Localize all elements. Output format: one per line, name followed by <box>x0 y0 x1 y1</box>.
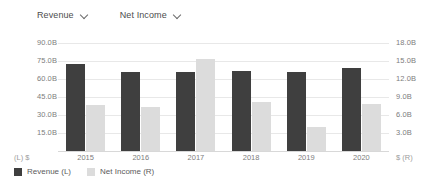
category-label: 2015 <box>58 153 113 162</box>
left-axis-tick-label: 60.0B <box>37 74 57 83</box>
legend-item[interactable]: Net Income (R) <box>87 167 154 176</box>
right-axis-unit: $ (R) <box>396 153 413 162</box>
right-axis-tick-label: 9.0B <box>396 92 412 101</box>
bar-net-income[interactable] <box>196 59 215 151</box>
legend-label: Revenue (L) <box>27 167 71 176</box>
plot-area: 90.0B75.0B60.0B45.0B30.0B15.0B 18.0B15.0… <box>0 34 435 160</box>
bar-revenue[interactable] <box>176 72 195 151</box>
left-axis-tick-label: 45.0B <box>37 92 57 101</box>
left-axis-unit: (L) $ <box>14 153 29 162</box>
right-axis-tick-label: 12.0B <box>396 74 416 83</box>
legend-item[interactable]: Revenue (L) <box>14 167 71 176</box>
bar-group[interactable]: 2017 <box>168 34 223 160</box>
bar-revenue[interactable] <box>232 71 251 151</box>
bar-group[interactable]: 2018 <box>224 34 279 160</box>
left-axis-tick-label: 30.0B <box>37 110 57 119</box>
bar-group[interactable]: 2016 <box>113 34 168 160</box>
bar-net-income[interactable] <box>86 105 105 151</box>
chevron-down-icon <box>173 11 181 19</box>
bar-net-income[interactable] <box>307 127 326 151</box>
bar-revenue[interactable] <box>121 72 140 151</box>
metric-selector-revenue-label: Revenue <box>37 10 74 20</box>
chevron-down-icon <box>80 11 88 19</box>
category-label: 2016 <box>113 153 168 162</box>
bar-net-income[interactable] <box>141 107 160 151</box>
metric-selector-net-income[interactable]: Net Income <box>113 7 188 23</box>
bar-group[interactable]: 2019 <box>279 34 334 160</box>
chart-legend: Revenue (L)Net Income (R) <box>14 167 154 176</box>
bar-net-income[interactable] <box>362 104 381 151</box>
bar-group[interactable]: 2015 <box>58 34 113 160</box>
right-axis-tick-label: 18.0B <box>396 38 416 47</box>
legend-swatch <box>14 168 22 176</box>
bar-net-income[interactable] <box>252 102 271 151</box>
metric-selector-bar: Revenue Net Income <box>0 0 435 30</box>
left-axis-tick-label: 75.0B <box>37 56 57 65</box>
metric-selector-revenue[interactable]: Revenue <box>30 7 95 23</box>
metric-selector-net-income-label: Net Income <box>120 10 167 20</box>
chart-widget: Revenue Net Income 90.0B75.0B60.0B45.0B3… <box>0 0 435 187</box>
right-axis-tick-label: 15.0B <box>396 56 416 65</box>
bar-revenue[interactable] <box>342 68 361 151</box>
bar-group[interactable]: 2020 <box>334 34 389 160</box>
category-label: 2017 <box>168 153 223 162</box>
category-label: 2020 <box>334 153 389 162</box>
right-axis-tick-label: 6.0B <box>396 110 412 119</box>
legend-swatch <box>87 168 95 176</box>
left-axis-tick-label: 15.0B <box>37 128 57 137</box>
bar-revenue[interactable] <box>287 72 306 151</box>
category-label: 2018 <box>224 153 279 162</box>
legend-label: Net Income (R) <box>100 167 154 176</box>
bar-groups: 201520162017201820192020 <box>58 34 389 160</box>
category-label: 2019 <box>279 153 334 162</box>
right-axis-tick-label: 3.0B <box>396 128 412 137</box>
left-axis-tick-label: 90.0B <box>37 38 57 47</box>
bar-revenue[interactable] <box>66 64 85 151</box>
